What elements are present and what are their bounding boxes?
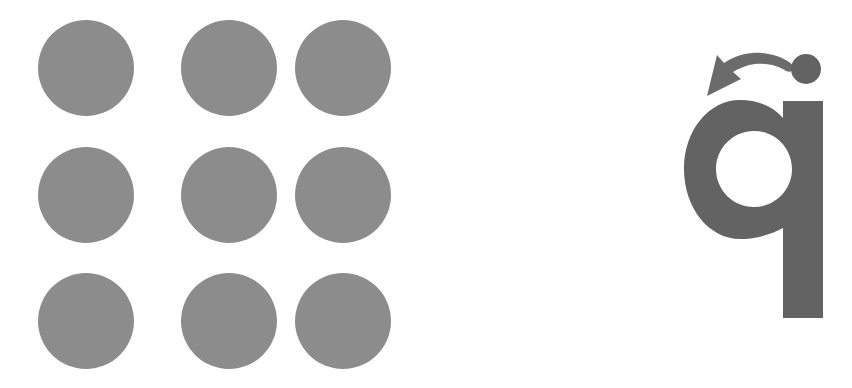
- grid-dot-r1-c1: [38, 20, 134, 116]
- dot-grid-svg: [0, 0, 426, 388]
- rotation-arrow: [707, 53, 793, 96]
- grid-dot-r3-c2: [181, 273, 277, 369]
- grid-dot-r3-c1: [38, 273, 134, 369]
- grid-dot-r2-c3: [295, 147, 391, 243]
- accent-dot: [791, 54, 821, 84]
- grid-dot-r3-c3: [295, 273, 391, 369]
- grid-dot-r1-c2: [181, 20, 277, 116]
- grid-dot-r2-c2: [181, 147, 277, 243]
- dot-grid-panel: [0, 0, 426, 388]
- glyph-svg: [426, 0, 852, 388]
- letter-q-glyph: [684, 100, 823, 318]
- grid-dot-r2-c1: [38, 147, 134, 243]
- glyph-panel: [426, 0, 852, 388]
- figure-root: [0, 0, 852, 388]
- grid-dot-r1-c3: [295, 20, 391, 116]
